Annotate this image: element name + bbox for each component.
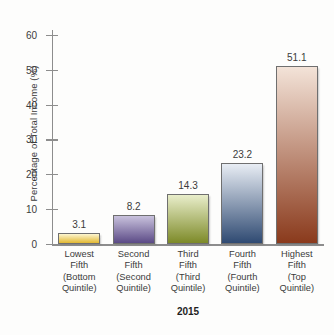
bar — [167, 194, 209, 244]
bar-slot: 3.1 — [56, 28, 102, 244]
category-label-line: Highest — [269, 249, 325, 260]
bar — [58, 233, 100, 244]
x-axis-category-label: FourthFifth(FourthQuintile) — [214, 249, 270, 294]
category-label-line: (Fourth — [214, 272, 270, 283]
bar-value-label: 23.2 — [219, 149, 265, 160]
category-label-line: (Top — [269, 272, 325, 283]
category-label-line: Quintile) — [214, 283, 270, 294]
y-axis-tick-label: 30 — [26, 134, 37, 145]
x-axis-category-label: LowestFifth(BottomQuintile) — [51, 249, 107, 294]
bar-value-label: 3.1 — [56, 219, 102, 230]
category-label-line: Fourth — [214, 249, 270, 260]
bar — [221, 163, 263, 244]
category-label-line: Fifth — [51, 260, 107, 271]
bar — [113, 215, 155, 244]
bar-slot: 8.2 — [111, 28, 157, 244]
y-axis-tick-label: 60 — [26, 29, 37, 40]
x-axis-category-label: ThirdFifth(ThirdQuintile) — [160, 249, 216, 294]
y-axis-tick-label: 50 — [26, 64, 37, 75]
category-label-line: Quintile) — [160, 283, 216, 294]
category-label-line: Second — [106, 249, 162, 260]
chart-figure: Percentage of Total Income (%) 010203040… — [0, 0, 334, 335]
category-label-line: Fifth — [106, 260, 162, 271]
y-axis-tick: 0 — [46, 244, 58, 245]
bar-series: 3.18.214.323.251.1 — [52, 28, 324, 244]
bar — [276, 66, 318, 244]
category-label-line: Fifth — [214, 260, 270, 271]
bar-value-label: 8.2 — [111, 201, 157, 212]
category-label-line: Quintile) — [106, 283, 162, 294]
category-label-line: Quintile) — [51, 283, 107, 294]
x-axis-category-labels: LowestFifth(BottomQuintile)SecondFifth(S… — [52, 249, 324, 299]
bar-value-label: 14.3 — [165, 180, 211, 191]
bar-value-label: 51.1 — [274, 52, 320, 63]
bar-slot: 23.2 — [219, 28, 265, 244]
y-axis-tick-label: 20 — [26, 169, 37, 180]
bar-slot: 51.1 — [274, 28, 320, 244]
y-axis-tick-label: 40 — [26, 99, 37, 110]
x-axis-category-label: HighestFifth(TopQuintile) — [269, 249, 325, 294]
category-label-line: Fifth — [160, 260, 216, 271]
x-axis-title: 2015 — [52, 306, 324, 317]
category-label-line: (Bottom — [51, 272, 107, 283]
category-label-line: Quintile) — [269, 283, 325, 294]
category-label-line: (Third — [160, 272, 216, 283]
plot-area: 0102030405060 3.18.214.323.251.1 — [52, 28, 324, 245]
y-axis-tick-label: 0 — [31, 239, 37, 250]
y-axis-tick-label: 10 — [26, 204, 37, 215]
category-label-line: Lowest — [51, 249, 107, 260]
category-label-line: Fifth — [269, 260, 325, 271]
x-axis-category-label: SecondFifth(SecondQuintile) — [106, 249, 162, 294]
bar-slot: 14.3 — [165, 28, 211, 244]
x-axis-line — [52, 244, 324, 246]
category-label-line: (Second — [106, 272, 162, 283]
category-label-line: Third — [160, 249, 216, 260]
